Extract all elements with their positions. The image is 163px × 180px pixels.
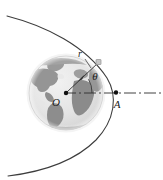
satellite-marker <box>96 60 101 65</box>
label-radius-r: r <box>78 48 82 59</box>
orbital-diagram-svg: O A r θ <box>0 0 163 180</box>
label-point-a: A <box>113 98 121 110</box>
point-a-marker <box>114 90 118 94</box>
label-center-o: O <box>52 96 60 108</box>
point-o-marker <box>64 91 68 95</box>
label-angle-theta: θ <box>92 70 98 82</box>
orbital-diagram-figure: O A r θ <box>0 0 163 180</box>
